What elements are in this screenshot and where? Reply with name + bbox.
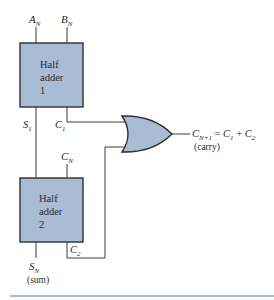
half-adder-1: Half adder 1 (20, 43, 83, 107)
half-adder-1-label-line2: adder (40, 72, 64, 83)
input-a-label: AN (28, 13, 41, 28)
full-adder-diagram: AN BN Half adder 1 S1 C1 CN+1 = C1 + C2 … (0, 0, 274, 300)
sum-label: SN (29, 260, 40, 275)
half-adder-2-label-line1: Half (39, 193, 58, 204)
input-cn-label: CN (61, 150, 73, 165)
half-adder-2-label-line3: 2 (39, 219, 44, 230)
c1-wire (67, 107, 125, 122)
half-adder-1-label-line3: 1 (40, 85, 45, 96)
half-adder-1-label-line1: Half (40, 59, 59, 70)
half-adder-2: Half adder 2 (20, 178, 83, 242)
half-adder-2-label-line2: adder (39, 206, 63, 217)
sum-note: (sum) (27, 275, 49, 286)
carry-note: (carry) (194, 142, 220, 153)
c1-label: C1 (55, 119, 66, 133)
input-b-label: BN (61, 13, 73, 28)
or-gate (122, 116, 172, 152)
carry-equation: CN+1 = C1 + C2 (192, 128, 256, 142)
s1-label: S1 (23, 119, 32, 133)
c2-label: C2 (70, 244, 81, 258)
